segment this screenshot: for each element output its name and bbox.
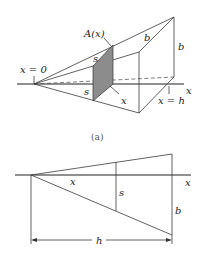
- label-x-zero: x = 0: [20, 64, 47, 75]
- figure-b: x x s b h: [15, 154, 191, 246]
- label-b: b: [175, 205, 181, 216]
- pyramid-volume-diagram: A(x) x = 0 x = h x s s x b b (a) x x s b…: [0, 0, 200, 253]
- label-x-segment: x: [70, 176, 76, 187]
- label-s: s: [119, 187, 124, 198]
- label-b-right: b: [178, 41, 184, 52]
- arrowhead-left-icon: [31, 238, 37, 242]
- figure-a: A(x) x = 0 x = h x s s x b b (a): [17, 17, 192, 142]
- leader-area: [104, 38, 112, 47]
- edge-top: [31, 154, 172, 175]
- edge-bottom: [31, 175, 172, 235]
- label-x-axis-a: x: [186, 85, 192, 96]
- label-x-axis-b: x: [185, 177, 191, 188]
- leader-x-depth: [110, 86, 119, 94]
- label-x-h: x = h: [158, 95, 185, 106]
- label-x-depth: x: [121, 95, 127, 106]
- arrowhead-right-icon: [166, 238, 172, 242]
- label-s-top: s: [93, 53, 98, 64]
- label-b-top: b: [144, 32, 150, 43]
- label-h: h: [96, 235, 102, 246]
- label-s-left: s: [84, 86, 89, 97]
- caption-a: (a): [91, 132, 103, 142]
- edge-apex-top-front: [34, 52, 139, 84]
- label-area: A(x): [83, 28, 105, 39]
